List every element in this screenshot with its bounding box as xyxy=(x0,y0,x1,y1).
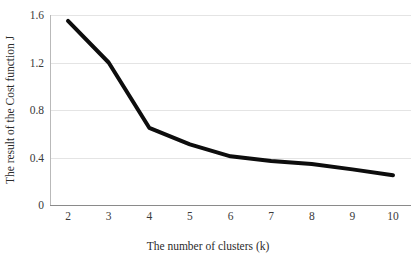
x-tick-label: 3 xyxy=(106,210,112,222)
chart-background xyxy=(0,0,417,264)
x-tick-label: 6 xyxy=(228,210,234,222)
y-tick-label: 0.4 xyxy=(30,152,45,164)
x-tick-label: 8 xyxy=(309,210,315,222)
x-axis-title: The number of clusters (k) xyxy=(147,240,270,253)
y-tick-label: 0 xyxy=(38,199,44,211)
x-tick-label: 10 xyxy=(387,210,399,222)
x-tick-label: 5 xyxy=(187,210,193,222)
x-tick-label: 9 xyxy=(350,210,356,222)
y-tick-label: 0.8 xyxy=(30,104,45,116)
x-tick-label: 2 xyxy=(65,210,71,222)
chart-canvas: 00.40.81.21.6 2345678910 The number of c… xyxy=(0,0,417,264)
y-tick-label: 1.2 xyxy=(30,57,45,69)
x-tick-label: 4 xyxy=(146,210,152,222)
y-axis-title: The result of the Cost function J xyxy=(4,35,16,184)
y-tick-label: 1.6 xyxy=(30,9,45,21)
x-tick-label: 7 xyxy=(268,210,274,222)
elbow-curve-chart: 00.40.81.21.6 2345678910 The number of c… xyxy=(0,0,417,264)
